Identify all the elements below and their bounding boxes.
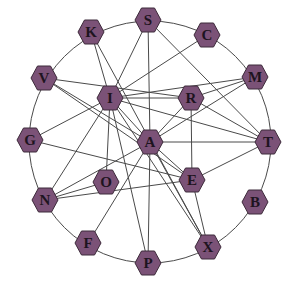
node-label: S (144, 12, 152, 28)
node-f[interactable]: F (75, 231, 101, 255)
graph-svg: SCMTBXPFNGVKIRAOE (0, 0, 298, 292)
edge-s-a (148, 20, 150, 142)
node-i[interactable]: I (97, 86, 123, 110)
edge-a-x (150, 142, 208, 247)
edge-a-p (148, 142, 150, 263)
node-t[interactable]: T (255, 130, 281, 154)
node-label: K (85, 24, 97, 40)
node-g[interactable]: G (17, 128, 43, 152)
node-label: T (263, 134, 273, 150)
node-c[interactable]: C (194, 23, 220, 47)
node-label: O (100, 174, 112, 190)
node-label: P (143, 255, 152, 271)
node-label: F (83, 235, 92, 251)
edge-v-a (44, 78, 150, 142)
node-label: A (145, 134, 156, 150)
network-diagram: SCMTBXPFNGVKIRAOE (0, 0, 298, 292)
node-label: V (39, 70, 50, 86)
node-label: G (24, 132, 36, 148)
node-label: X (203, 239, 214, 255)
node-s[interactable]: S (135, 8, 161, 32)
node-r[interactable]: R (178, 86, 204, 110)
node-n[interactable]: N (32, 188, 58, 212)
edge-i-o (106, 98, 110, 182)
node-label: I (107, 90, 113, 106)
node-x[interactable]: X (195, 235, 221, 259)
node-k[interactable]: K (78, 20, 104, 44)
node-label: E (187, 172, 197, 188)
edge-e-t (192, 142, 268, 180)
node-label: C (202, 27, 213, 43)
edge-r-t (191, 98, 268, 142)
node-label: B (250, 194, 260, 210)
node-b[interactable]: B (242, 190, 268, 214)
node-p[interactable]: P (135, 251, 161, 275)
edge-i-g (30, 98, 110, 140)
node-label: N (40, 192, 51, 208)
node-label: R (186, 90, 197, 106)
edge-m-a (150, 77, 255, 142)
node-label: M (248, 69, 262, 85)
